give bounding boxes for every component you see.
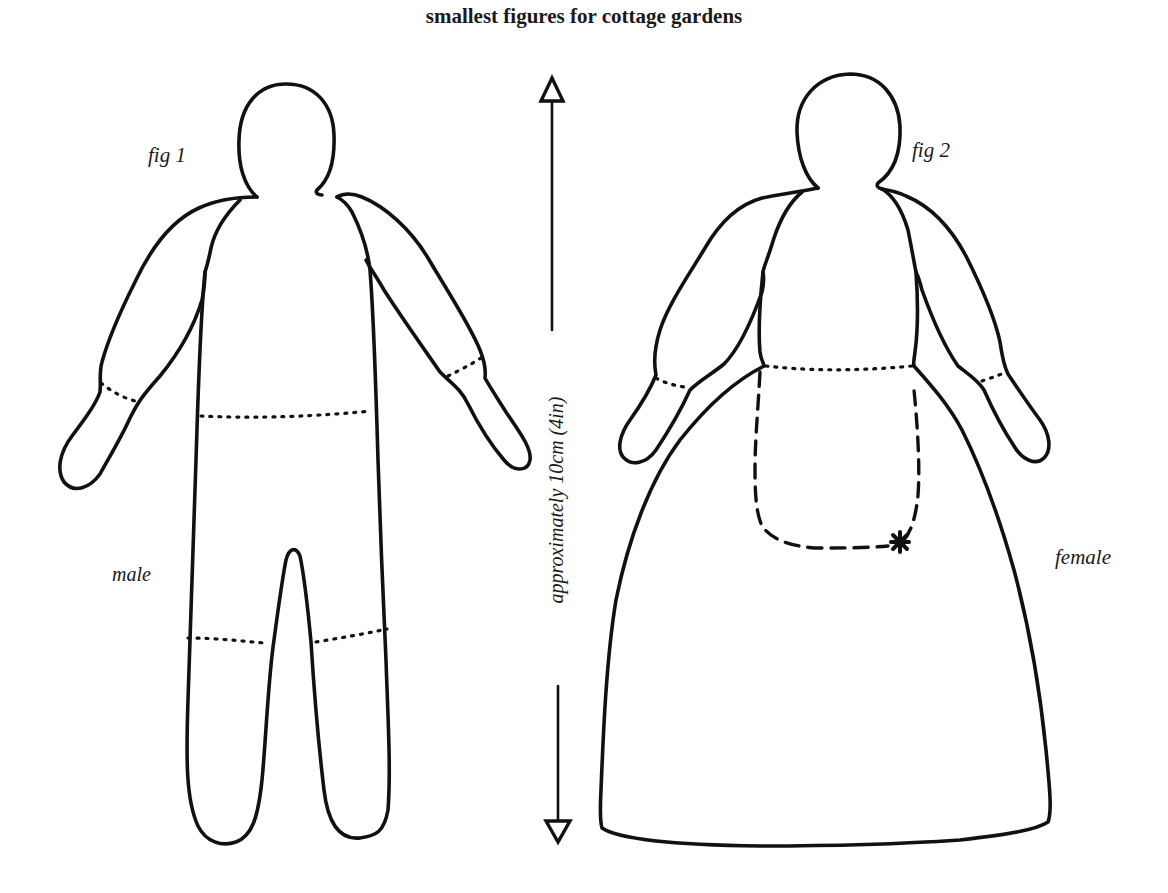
male-waist-stitch xyxy=(201,411,371,417)
female-apron-outline xyxy=(755,372,919,548)
female-left-arm xyxy=(620,188,818,463)
female-waist-stitch xyxy=(766,366,912,370)
female-left-wrist-stitch xyxy=(656,378,690,388)
male-head xyxy=(239,84,334,197)
asterisk-marker-icon xyxy=(891,532,909,552)
female-right-wrist-stitch xyxy=(982,372,1006,381)
arrow-up-icon xyxy=(541,78,563,101)
female-bodice xyxy=(759,189,917,366)
pattern-diagram: smallest figures for cottage gardens fig… xyxy=(0,0,1168,893)
male-left-wrist-stitch xyxy=(101,383,135,401)
arrow-down-icon xyxy=(546,821,570,842)
measurement-arrows xyxy=(541,78,570,842)
male-right-wrist-stitch xyxy=(448,356,484,376)
figures-artwork xyxy=(0,0,1168,893)
female-skirt xyxy=(600,366,1050,846)
male-body xyxy=(187,197,389,844)
male-left-knee-stitch xyxy=(188,638,265,643)
female-head xyxy=(797,74,900,189)
female-figure xyxy=(600,74,1050,846)
male-right-knee-stitch xyxy=(316,629,387,642)
male-left-arm xyxy=(60,197,257,488)
male-right-arm xyxy=(337,194,530,469)
male-figure xyxy=(60,84,530,844)
